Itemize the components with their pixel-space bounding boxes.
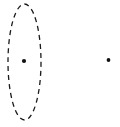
figure-background bbox=[0, 0, 120, 127]
outer-point-dot bbox=[107, 58, 111, 62]
figure-svg bbox=[0, 0, 120, 127]
center-point-dot bbox=[22, 59, 26, 63]
figure-canvas bbox=[0, 0, 120, 127]
